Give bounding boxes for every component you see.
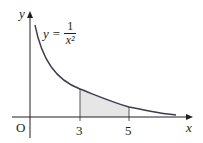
graph-diagram: y x O 3 5 y = 1 x² [0,0,203,143]
fraction: 1 x² [64,21,76,46]
x-axis-label: x [186,121,192,134]
graph-svg [0,0,203,143]
origin-label: O [16,121,25,134]
fraction-denominator: x² [64,35,76,46]
function-label: y = 1 x² [43,21,76,46]
tick-label-5: 5 [125,124,132,137]
y-axis-label: y [19,7,25,20]
fraction-numerator: 1 [64,21,76,32]
tick-label-3: 3 [76,124,83,137]
function-lhs: y [43,26,49,42]
shaded-area [80,89,129,117]
y-axis-arrow-icon [27,11,33,18]
function-equals: = [53,26,60,42]
